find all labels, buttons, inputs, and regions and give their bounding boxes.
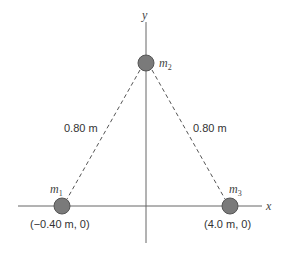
x-axis-label: x <box>266 200 271 212</box>
distance-label-left: 0.80 m <box>64 123 98 134</box>
mass-m1 <box>54 198 70 214</box>
dashed-line-left <box>67 70 140 199</box>
mass-m2 <box>138 55 154 71</box>
mass-label-m3: m3 <box>229 183 242 198</box>
y-axis-label: y <box>142 9 147 21</box>
mass-m3 <box>222 198 238 214</box>
diagram-canvas <box>0 0 287 255</box>
coord-label-m1: (−0.40 m, 0) <box>30 219 90 230</box>
mass-label-m1: m1 <box>50 183 63 198</box>
coord-label-m3: (4.0 m, 0) <box>204 219 251 230</box>
distance-label-right: 0.80 m <box>193 123 227 134</box>
mass-label-m2: m2 <box>159 57 172 72</box>
dashed-line-right <box>152 70 225 199</box>
